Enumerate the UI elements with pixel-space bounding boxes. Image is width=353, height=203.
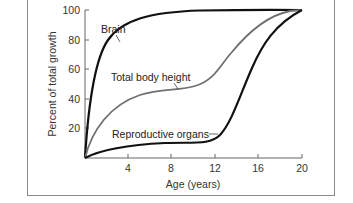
y-tick-label: 60 [68, 63, 80, 75]
x-axis-title: Age (years) [166, 178, 220, 190]
x-tick-label: 8 [168, 162, 174, 174]
y-tick-label: 40 [68, 93, 80, 105]
y-tick-label: 20 [68, 122, 80, 134]
reproductive-organs-label: Reproductive organs [112, 128, 209, 140]
body-height-label: Total body height [111, 71, 190, 83]
brain-leader-line [116, 35, 120, 42]
brain-label: Brain [101, 23, 126, 35]
x-tick-label: 20 [296, 162, 308, 174]
y-tick-label: 80 [68, 34, 80, 46]
growth-chart: 100 80 60 40 20 4 8 12 16 20 Age (years)… [0, 0, 353, 203]
x-tick-label: 12 [209, 162, 221, 174]
y-axis-title: Percent of total growth [46, 31, 58, 136]
x-tick-label: 16 [252, 162, 264, 174]
y-tick-label: 100 [62, 4, 80, 16]
x-axis [85, 154, 302, 158]
body-height-leader-line [174, 83, 178, 89]
x-tick-label: 4 [125, 162, 131, 174]
